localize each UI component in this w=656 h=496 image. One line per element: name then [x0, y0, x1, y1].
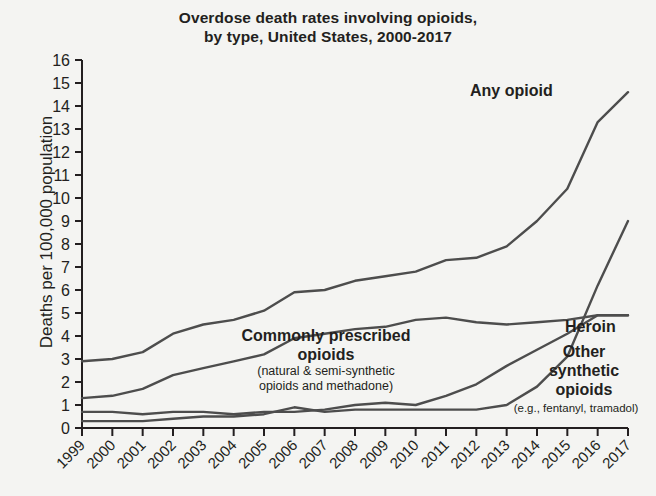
- x-tick-label: 2002: [144, 436, 180, 472]
- y-tick-label: 7: [61, 259, 70, 276]
- series-sublabel-cpo-line1: (natural & semi-synthetic: [228, 364, 424, 379]
- y-tick-label: 15: [52, 75, 70, 92]
- series-label-heroin-text: Heroin: [565, 318, 616, 335]
- y-tick-label: 14: [52, 98, 70, 115]
- x-tick-label: 2009: [356, 436, 392, 472]
- y-tick-label: 6: [61, 282, 70, 299]
- y-tick-label: 12: [52, 144, 70, 161]
- x-tick-label: 2005: [235, 436, 271, 472]
- x-tick-label: 2015: [538, 436, 574, 472]
- y-tick-label: 0: [61, 420, 70, 437]
- x-tick-label: 2006: [265, 436, 301, 472]
- x-tick-label: 2008: [326, 436, 362, 472]
- x-tick-label: 2017: [599, 436, 635, 472]
- y-tick-label: 8: [61, 236, 70, 253]
- x-tick-label: 2016: [568, 436, 604, 472]
- series-label-oso-line3: opioids: [518, 380, 650, 399]
- series-label-oso-line1: Other: [518, 342, 650, 361]
- series-label-heroin: Heroin: [565, 318, 616, 336]
- x-tick-label: 2013: [477, 436, 513, 472]
- x-tick-label: 2001: [113, 436, 149, 472]
- series-label-commonly-prescribed-opioids-text: Commonly prescribed opioids: [228, 326, 424, 364]
- y-tick-label: 13: [52, 121, 70, 138]
- y-tick-label: 2: [61, 374, 70, 391]
- x-tick-label: 2004: [204, 436, 240, 472]
- series-label-any-opioid-text: Any opioid: [470, 82, 553, 99]
- series-label-any-opioid: Any opioid: [470, 82, 553, 100]
- series-label-other-synthetic-opioids: Other synthetic opioids (e.g., fentanyl,…: [518, 342, 650, 418]
- y-tick-label: 1: [61, 397, 70, 414]
- plot-area: 0123456789101112131415161999200020012002…: [0, 0, 656, 496]
- y-tick-label: 16: [52, 52, 70, 69]
- x-tick-label: 2012: [447, 436, 483, 472]
- x-tick-label: 2014: [508, 436, 544, 472]
- chart-root: Overdose death rates involving opioids, …: [0, 0, 656, 496]
- series-sublabel-oso: (e.g., fentanyl, tramadol): [502, 399, 650, 418]
- y-tick-label: 4: [61, 328, 70, 345]
- x-tick-label: 2010: [386, 436, 422, 472]
- y-tick-label: 10: [52, 190, 70, 207]
- series-label-oso-line2: synthetic: [518, 361, 650, 380]
- series-sublabel-cpo-line2: opioids and methadone): [228, 379, 424, 394]
- series-label-commonly-prescribed-opioids: Commonly prescribed opioids (natural & s…: [228, 326, 424, 393]
- x-tick-label: 2000: [83, 436, 119, 472]
- x-tick-label: 1999: [53, 436, 89, 472]
- x-tick-label: 2003: [174, 436, 210, 472]
- y-tick-label: 3: [61, 351, 70, 368]
- y-tick-label: 5: [61, 305, 70, 322]
- x-tick-label: 2007: [295, 436, 331, 472]
- x-tick-label: 2011: [417, 436, 452, 471]
- y-tick-label: 11: [53, 167, 70, 184]
- y-tick-label: 9: [61, 213, 70, 230]
